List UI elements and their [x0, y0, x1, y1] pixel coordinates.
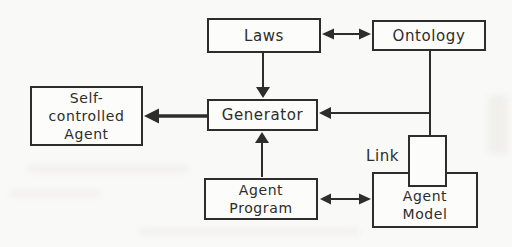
edge-laws-ontology-arrow	[322, 29, 371, 40]
node-agent-program-label-line2: Program	[229, 199, 292, 217]
node-ontology: Ontology	[372, 20, 486, 51]
node-link-box	[408, 135, 447, 187]
node-self-controlled-agent-label-line3: Agent	[64, 125, 108, 143]
edge-ontology-generator-arrow	[319, 107, 430, 119]
node-laws-label: Laws	[244, 27, 284, 45]
node-agent-program-label-line1: Agent	[239, 181, 283, 199]
edge-program-model-arrow	[320, 194, 371, 205]
node-agent-model-label-line1: Agent	[403, 187, 447, 205]
edge-program-generator-arrow	[255, 132, 269, 177]
diagram-canvas: Laws Ontology Generator Self- controlled…	[0, 0, 512, 247]
node-self-controlled-agent: Self- controlled Agent	[30, 86, 143, 146]
node-ontology-label: Ontology	[393, 27, 466, 45]
node-self-controlled-agent-label-line1: Self-	[70, 89, 104, 107]
node-self-controlled-agent-label-line2: controlled	[49, 107, 125, 125]
node-generator-label: Generator	[222, 106, 304, 124]
node-agent-program: Agent Program	[204, 178, 318, 220]
link-label: Link	[366, 147, 399, 165]
node-agent-model-label-line2: Model	[402, 205, 447, 223]
node-laws: Laws	[207, 18, 321, 53]
edge-laws-generator-arrow	[256, 53, 270, 98]
edge-generator-agent-arrow	[144, 109, 207, 124]
node-generator: Generator	[207, 99, 318, 131]
